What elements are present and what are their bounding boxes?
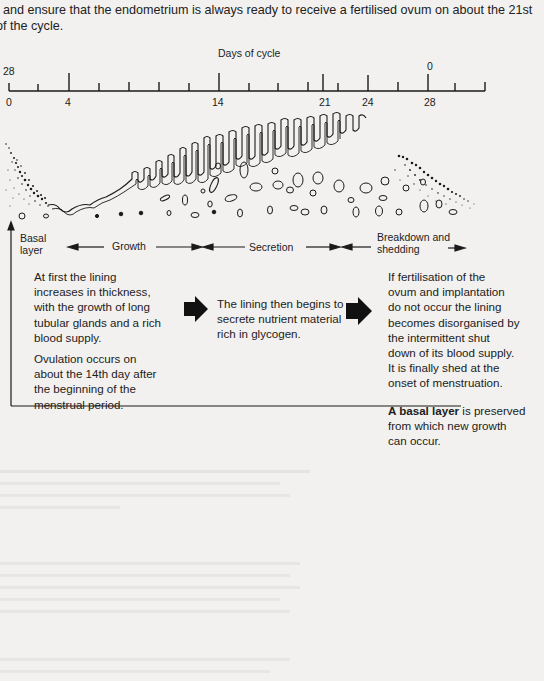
glands-and-vessels [19,162,457,219]
bleed-line [0,494,290,497]
left-shedding-stipple [5,143,49,207]
basal-label-line-1: Basal [20,232,46,244]
text-line: It is finally shed at the [388,361,500,374]
phase-label-secretion: Secretion [249,241,293,253]
timeline-axis [9,73,485,91]
text-line: about the 14th day after [34,367,156,380]
bleed-line [0,598,280,601]
bleed-through-region [0,470,544,681]
text-line: is preserved [459,404,525,417]
text-line: secrete nutrient material [217,312,341,325]
breakdown-description: If fertilisation of the ovum and implant… [388,269,544,454]
text-line: increases in thickness, [34,285,151,298]
breakdown-label-line-2: shedding [377,243,450,255]
text-line: blood supply. [34,331,101,344]
text-line: If fertilisation of the [388,270,485,283]
bleed-line [0,658,290,661]
phase-label-growth: Growth [112,240,146,252]
text-line: At first the lining [34,270,116,283]
bleed-line [0,470,310,473]
text-line: becomes disorganised by [388,316,519,329]
text-line: with the growth of long [34,300,150,313]
text-line: can occur. [388,434,441,447]
secretion-description: The lining then begins to secrete nutrie… [217,296,347,348]
block-arrow-2 [346,297,372,325]
text-line: The lining then begins to [217,297,343,310]
basal-layer-emphasis: A basal layer [388,404,459,417]
breakdown-para-1: If fertilisation of the ovum and implant… [388,269,544,391]
text-line: Ovulation occurs on [34,352,136,365]
phase-label-breakdown: Breakdown and shedding [377,231,450,255]
endometrium-surface-inner [52,120,340,215]
bleed-line [0,506,120,509]
bleed-line [0,586,300,589]
right-shedding-stipple [394,155,474,209]
bleed-line [0,610,290,613]
breakdown-para-2: A basal layer is preserved from which ne… [388,403,544,449]
secretion-para-1: The lining then begins to secrete nutrie… [217,296,347,342]
text-line: from which new growth [388,419,507,432]
text-line: do not occur the lining [388,300,501,313]
text-line: down of its blood supply. [388,346,514,359]
text-line: tubular glands and a rich [34,316,161,329]
growth-para-1: At first the lining increases in thickne… [34,269,184,345]
endometrium-surface-outer [48,113,366,213]
growth-description: At first the lining increases in thickne… [34,269,184,418]
basal-layer-label: Basal layer [20,232,46,256]
bleed-line [0,670,270,673]
text-line: rich in glycogen. [217,327,301,340]
block-arrow-1 [184,296,208,322]
text-line: onset of menstruation. [388,376,503,389]
text-line: the beginning of the [34,382,136,395]
bleed-line [0,574,290,577]
bleed-line [0,562,300,565]
basal-label-line-2: layer [20,244,46,256]
breakdown-label-line-1: Breakdown and [377,231,450,243]
growth-para-2: Ovulation occurs on about the 14th day a… [34,351,184,412]
text-line: the intermittent shut [388,331,490,344]
text-line: menstrual period. [34,398,124,411]
text-line: ovum and implantation [388,285,505,298]
endometrium-illustration [5,113,474,220]
bleed-line [0,482,280,485]
